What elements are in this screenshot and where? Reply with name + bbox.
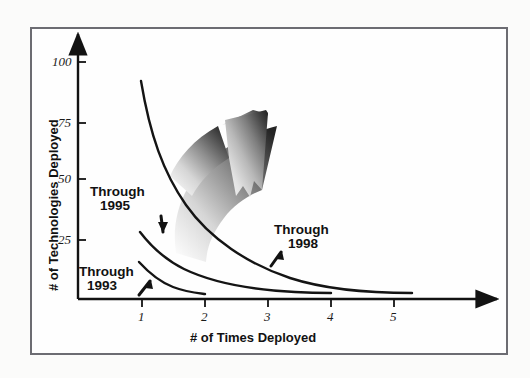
annotation-1993-line1: Through	[79, 264, 134, 279]
annotation-arrow-1998-icon	[271, 251, 284, 266]
x-tick-label-4: 4	[327, 309, 334, 325]
x-tick-label-5: 5	[390, 309, 397, 325]
y-axis-title: # of Technologies Deployed	[46, 119, 61, 291]
annotation-through-1993: Through 1993	[79, 265, 134, 293]
y-tick-label-100: 100	[52, 54, 72, 70]
x-tick-label-2: 2	[201, 309, 208, 325]
annotation-through-1995: Through 1995	[90, 185, 145, 213]
annotation-1998-line1: Through	[274, 222, 329, 237]
annotation-arrow-1993-icon	[139, 280, 153, 295]
growth-arrow-icon	[170, 109, 288, 262]
x-tick-label-1: 1	[138, 309, 145, 325]
series-line-through-1998	[141, 81, 412, 293]
annotation-1993-line2: 1993	[79, 279, 134, 293]
annotation-1995-line1: Through	[90, 184, 145, 199]
annotation-arrow-1995-icon	[158, 216, 168, 233]
figure-root: 100 75 50 25 1 2 3 4 5 # of Technologies…	[0, 0, 530, 378]
x-axis-title: # of Times Deployed	[190, 330, 316, 345]
annotation-1998-line2: 1998	[274, 237, 329, 251]
series-line-through-1993	[139, 262, 205, 294]
x-tick-label-3: 3	[264, 309, 271, 325]
annotation-through-1998: Through 1998	[274, 223, 329, 251]
annotation-1995-line2: 1995	[90, 199, 145, 213]
